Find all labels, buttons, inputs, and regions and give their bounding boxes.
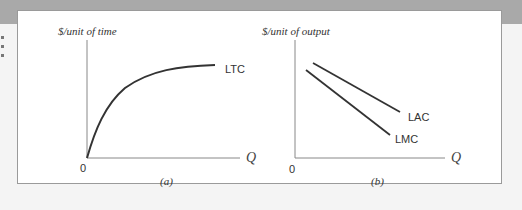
lac-label: LAC xyxy=(408,111,429,123)
chart-a-x-label: Q xyxy=(246,150,256,165)
chart-b-x-label: Q xyxy=(451,150,461,165)
ltc-label: LTC xyxy=(225,63,245,75)
chart-a-origin: 0 xyxy=(80,162,86,174)
chart-b-origin: 0 xyxy=(289,163,295,175)
lmc-line xyxy=(306,70,390,135)
chart-b: $/unit of output LAC LMC Q 0 (b) xyxy=(262,25,461,188)
chart-b-caption: (b) xyxy=(371,175,384,188)
lmc-label: LMC xyxy=(395,133,418,145)
figure-svg: $/unit of time LTC Q 0 (a) $/unit of out… xyxy=(0,0,522,210)
lac-line xyxy=(313,63,400,112)
chart-a: $/unit of time LTC Q 0 (a) xyxy=(58,25,256,188)
ltc-curve xyxy=(87,65,215,158)
chart-a-ylabel: $/unit of time xyxy=(58,25,117,37)
chart-a-caption: (a) xyxy=(160,175,173,188)
chart-b-ylabel: $/unit of output xyxy=(262,25,331,37)
